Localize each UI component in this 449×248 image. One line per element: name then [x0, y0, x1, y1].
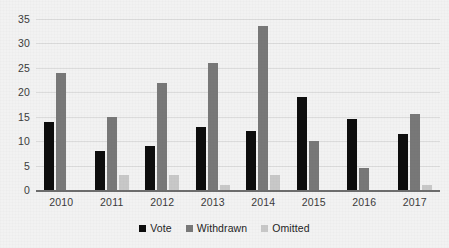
bar-withdrawn-2012[interactable]	[157, 83, 167, 190]
y-axis-tick-label: 15	[2, 111, 30, 123]
bar-vote-2015[interactable]	[297, 97, 307, 190]
bar-withdrawn-2010[interactable]	[56, 73, 66, 190]
legend-item-withdrawn[interactable]: Withdrawn	[186, 222, 248, 234]
bar-chart: 05101520253035 2010201120122013201420152…	[0, 0, 449, 248]
bar-omitted-2014[interactable]	[270, 175, 280, 190]
bar-group	[137, 19, 188, 190]
bar-withdrawn-2017[interactable]	[410, 114, 420, 190]
x-axis-labels: 20102011201220132014201520162017	[36, 193, 440, 211]
bar-vote-2011[interactable]	[95, 151, 105, 190]
bar-withdrawn-2016[interactable]	[359, 168, 369, 190]
bar-group	[87, 19, 138, 190]
legend-label: Withdrawn	[197, 222, 248, 234]
x-axis-tick-label: 2017	[390, 193, 441, 211]
legend-swatch-icon	[139, 225, 146, 232]
x-axis-tick-label: 2013	[188, 193, 239, 211]
y-axis-tick-label: 25	[2, 62, 30, 74]
y-axis-tick-label: 10	[2, 135, 30, 147]
legend-item-omitted[interactable]: Omitted	[261, 222, 309, 234]
x-axis-tick-label: 2014	[238, 193, 289, 211]
bar-omitted-2012[interactable]	[169, 175, 179, 190]
bar-group	[289, 19, 340, 190]
legend-label: Vote	[150, 222, 171, 234]
bar-group	[238, 19, 289, 190]
y-axis-tick-label: 0	[2, 184, 30, 196]
bar-omitted-2011[interactable]	[119, 175, 129, 190]
y-axis-tick-label: 35	[2, 13, 30, 25]
x-axis-tick-label: 2015	[289, 193, 340, 211]
legend-label: Omitted	[272, 222, 309, 234]
y-axis-tick-label: 20	[2, 86, 30, 98]
bar-vote-2012[interactable]	[145, 146, 155, 190]
bar-withdrawn-2015[interactable]	[309, 141, 319, 190]
bar-vote-2017[interactable]	[398, 134, 408, 190]
x-axis-line	[36, 190, 440, 192]
chart-legend: VoteWithdrawnOmitted	[0, 222, 449, 234]
bar-group	[188, 19, 239, 190]
x-axis-tick-label: 2016	[339, 193, 390, 211]
bar-vote-2013[interactable]	[196, 127, 206, 191]
legend-item-vote[interactable]: Vote	[139, 222, 171, 234]
y-axis-tick-label: 30	[2, 37, 30, 49]
bar-withdrawn-2013[interactable]	[208, 63, 218, 190]
bar-withdrawn-2014[interactable]	[258, 26, 268, 190]
legend-swatch-icon	[186, 225, 193, 232]
x-axis-tick-label: 2012	[137, 193, 188, 211]
bar-withdrawn-2011[interactable]	[107, 117, 117, 190]
y-axis-tick-label: 5	[2, 160, 30, 172]
x-axis-tick-label: 2011	[87, 193, 138, 211]
x-axis-tick-label: 2010	[36, 193, 87, 211]
bar-vote-2016[interactable]	[347, 119, 357, 190]
bar-groups	[36, 19, 440, 190]
bar-vote-2010[interactable]	[44, 122, 54, 190]
bar-group	[36, 19, 87, 190]
bar-group	[390, 19, 441, 190]
legend-swatch-icon	[261, 225, 268, 232]
bar-vote-2014[interactable]	[246, 131, 256, 190]
bar-group	[339, 19, 390, 190]
